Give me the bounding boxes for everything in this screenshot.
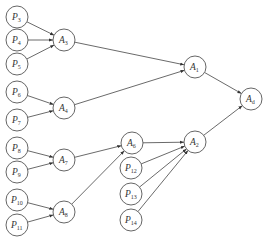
edge-p5-to-a3 bbox=[27, 45, 54, 59]
edge-a2-to-ad bbox=[204, 106, 243, 136]
node-p6: P6 bbox=[6, 81, 28, 103]
edge-p3-to-a3 bbox=[27, 22, 54, 35]
edge-p14-to-a2 bbox=[138, 151, 188, 212]
edge-a1-to-ad bbox=[205, 73, 242, 94]
node-a3: A3 bbox=[53, 29, 75, 51]
node-ad: Ad bbox=[240, 88, 262, 110]
edge-a6-to-a2 bbox=[143, 142, 184, 143]
node-p4: P4 bbox=[6, 29, 28, 51]
node-p10: P10 bbox=[6, 189, 28, 211]
node-a4: A4 bbox=[53, 97, 75, 119]
node-p13: P13 bbox=[120, 183, 142, 205]
edge-p10-to-a8 bbox=[28, 203, 54, 210]
node-a6: A6 bbox=[121, 132, 143, 154]
node-p9: P9 bbox=[6, 161, 28, 183]
node-a2: A2 bbox=[184, 131, 206, 153]
node-p8: P8 bbox=[6, 137, 28, 159]
node-a8: A8 bbox=[53, 201, 75, 223]
edge-a3-to-a1 bbox=[75, 42, 184, 65]
hierarchy-diagram: P3P4P5P6P7P8P9P10P11A3A4A7A8A6P12P13P14A… bbox=[0, 0, 264, 239]
node-p3: P3 bbox=[6, 6, 28, 28]
edge-p7-to-a4 bbox=[28, 111, 54, 118]
node-p11: P11 bbox=[6, 214, 28, 236]
nodes-layer: P3P4P5P6P7P8P9P10P11A3A4A7A8A6P12P13P14A… bbox=[6, 6, 262, 236]
node-a7: A7 bbox=[53, 149, 75, 171]
edge-p8-to-a7 bbox=[28, 151, 54, 158]
node-p14: P14 bbox=[120, 209, 142, 231]
node-p5: P5 bbox=[6, 53, 28, 75]
edge-a8-to-a6 bbox=[72, 151, 125, 204]
node-a1: A1 bbox=[184, 56, 206, 78]
edge-a4-to-a1 bbox=[75, 70, 185, 104]
edge-p9-to-a7 bbox=[28, 163, 54, 170]
node-p12: P12 bbox=[120, 157, 142, 179]
edge-p6-to-a4 bbox=[27, 96, 53, 105]
edge-p12-to-a2 bbox=[141, 146, 185, 164]
edge-a7-to-a6 bbox=[75, 146, 122, 158]
edge-p11-to-a8 bbox=[28, 215, 54, 222]
node-p7: P7 bbox=[6, 109, 28, 131]
